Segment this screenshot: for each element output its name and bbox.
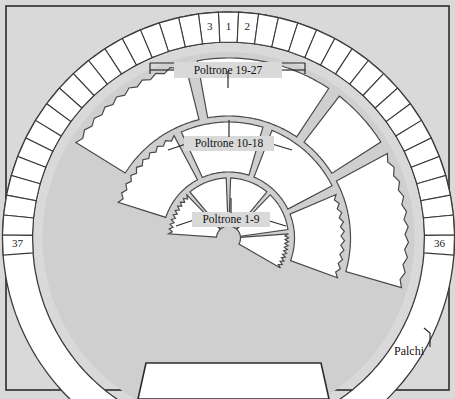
palco-number-3: 3 [207, 20, 213, 32]
label-text-middle: Poltrone 10-18 [195, 137, 264, 149]
label-text-front: Poltrone 1-9 [202, 213, 259, 225]
palco-number-1: 1 [226, 20, 232, 32]
palchi-label: Palchi [394, 344, 425, 358]
palco-number-2: 2 [245, 20, 251, 32]
palco-number-36: 36 [434, 237, 446, 249]
plan-svg: 1233637 Poltrone 19-27 Poltrone 10-18 Po… [0, 0, 455, 399]
stage-palcoscenico [138, 363, 329, 399]
palco-box-34[interactable] [424, 215, 455, 235]
palco-number-37: 37 [12, 237, 24, 249]
theatre-seating-plan: 1233637 Poltrone 19-27 Poltrone 10-18 Po… [0, 0, 455, 399]
palco-box-35[interactable] [3, 215, 34, 235]
